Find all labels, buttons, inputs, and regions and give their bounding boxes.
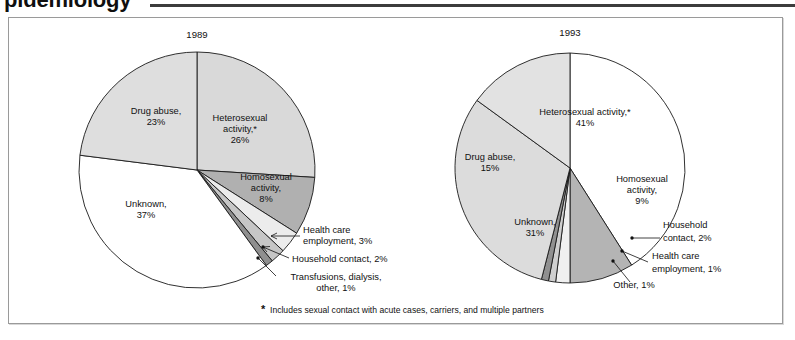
label-line: 37% bbox=[137, 210, 156, 220]
label-line: Household contact, 2% bbox=[292, 254, 388, 264]
pie-1989-title: 1989 bbox=[186, 29, 207, 40]
label-line: other, 1% bbox=[316, 283, 355, 293]
footnote-marker: * bbox=[261, 303, 266, 315]
label-line: activity, bbox=[251, 183, 281, 193]
label-line: 31% bbox=[526, 228, 545, 238]
label-line: Heterosexual activity,* bbox=[539, 107, 631, 117]
label-line: 23% bbox=[147, 117, 166, 127]
label-line: Drug abuse, bbox=[465, 152, 516, 162]
label-line: Transfusions, dialysis, bbox=[290, 272, 381, 282]
label-line: activity,* bbox=[223, 124, 257, 134]
label-line: activity, bbox=[627, 185, 657, 195]
pie-1993-title: 1993 bbox=[559, 27, 580, 38]
pie-1989-slices bbox=[79, 52, 315, 288]
label-line: employment, 1% bbox=[652, 264, 721, 274]
label-line: Homosexual bbox=[616, 174, 668, 184]
label-line: employment, 3% bbox=[303, 236, 372, 246]
label-line: Drug abuse, bbox=[131, 106, 182, 116]
label-line: Health care bbox=[303, 225, 351, 235]
pie-chart-1989: 1989 Heterosexual activity,* 26% Drug ab… bbox=[79, 29, 388, 293]
label-line: 26% bbox=[231, 135, 250, 145]
label-line: Homosexual bbox=[240, 172, 292, 182]
label-line: 9% bbox=[635, 196, 648, 206]
footnote-text: Includes sexual contact with acute cases… bbox=[270, 305, 544, 315]
label-line: 8% bbox=[259, 194, 272, 204]
figure-footnote: * Includes sexual contact with acute cas… bbox=[261, 303, 544, 315]
label-line: 41% bbox=[576, 118, 595, 128]
label-line: Unknown, bbox=[125, 199, 166, 209]
label-line: contact, 2% bbox=[663, 233, 712, 243]
label-line: Heterosexual bbox=[213, 113, 268, 123]
label-line: Other, 1% bbox=[613, 280, 654, 290]
label-line: 15% bbox=[481, 163, 500, 173]
label-line: Health care bbox=[652, 251, 700, 261]
pie-chart-1993: 1993 Heterosexual activity,* 41% Drug ab… bbox=[455, 27, 721, 290]
label-line: Unknown, bbox=[514, 217, 555, 227]
pie-charts-figure: 1989 Heterosexual activity,* 26% Drug ab… bbox=[0, 0, 795, 340]
label-line: Household bbox=[663, 220, 707, 230]
